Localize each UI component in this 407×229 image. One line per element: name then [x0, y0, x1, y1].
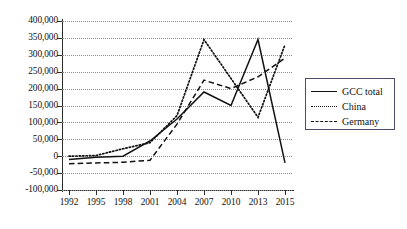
y-axis-tick-label: -100,000 [0, 185, 58, 194]
y-axis-tick-label: 50,000 [0, 135, 58, 144]
y-axis-tick-label: 100,000 [0, 118, 58, 127]
x-axis-tick-label: 2010 [222, 197, 241, 207]
series-line-gcc-total [69, 40, 285, 163]
x-axis-tick-label: 2013 [249, 197, 268, 207]
series-line-china [69, 40, 285, 157]
legend-label-china: China [342, 102, 366, 112]
y-axis-tick-label: 150,000 [0, 101, 58, 110]
chart-figure: 400,000350,000300,000250,000200,000150,0… [0, 0, 407, 229]
x-axis-tick [123, 190, 124, 195]
x-axis-tick [96, 190, 97, 195]
series-line-germany [69, 58, 285, 163]
x-axis-tick-label: 1998 [114, 197, 133, 207]
legend-item-germany: Germany [311, 114, 394, 129]
legend-label-germany: Germany [342, 117, 379, 127]
x-axis-tick [285, 190, 286, 195]
x-axis-tick [150, 190, 151, 195]
legend-key-solid-icon [311, 87, 337, 97]
y-axis-tick-label: 300,000 [0, 50, 58, 59]
y-axis-tick [57, 190, 62, 191]
legend-key-dashed-icon [311, 117, 337, 127]
y-axis-tick-label: 250,000 [0, 67, 58, 76]
x-axis-tick-label: 1995 [87, 197, 106, 207]
legend-key-dotted-icon [311, 102, 337, 112]
x-axis-tick [177, 190, 178, 195]
x-axis-tick [204, 190, 205, 195]
x-axis-tick-label: 2001 [141, 197, 160, 207]
y-axis-tick-label: -50,000 [0, 168, 58, 177]
y-axis-tick-label: 200,000 [0, 84, 58, 93]
legend-label-gcc-total: GCC total [342, 87, 383, 97]
x-axis-tick-label: 2007 [195, 197, 214, 207]
plot-area [62, 21, 292, 190]
x-axis-tick-label: 2004 [168, 197, 187, 207]
x-axis-tick [258, 190, 259, 195]
y-axis-tick-label: 400,000 [0, 16, 58, 25]
series-lines [62, 21, 292, 190]
chart-legend: GCC total China Germany [305, 78, 395, 130]
y-axis-tick-label: 0 [0, 152, 58, 161]
x-axis-tick [69, 190, 70, 195]
x-axis-tick [231, 190, 232, 195]
y-axis-tick-label: 350,000 [0, 33, 58, 42]
legend-item-gcc-total: GCC total [311, 84, 394, 99]
x-axis-tick-label: 1992 [60, 197, 79, 207]
x-axis-tick-label: 2015 [276, 197, 295, 207]
legend-item-china: China [311, 99, 394, 114]
